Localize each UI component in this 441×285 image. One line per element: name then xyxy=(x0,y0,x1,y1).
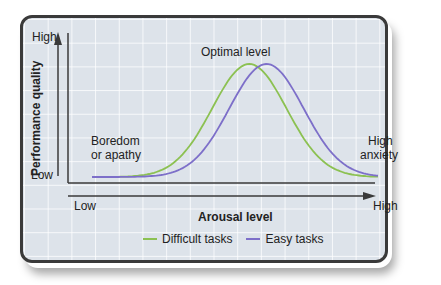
x-tick-high: High xyxy=(373,200,398,213)
legend-swatch-difficult xyxy=(143,238,157,240)
legend-swatch-easy xyxy=(246,238,260,240)
annotation-anxiety-line1: High xyxy=(368,135,393,148)
annotation-optimal: Optimal level xyxy=(201,46,270,59)
y-axis-title: Performance quality xyxy=(29,61,43,176)
legend-label-difficult: Difficult tasks xyxy=(162,232,232,246)
legend-label-easy: Easy tasks xyxy=(265,232,323,246)
annotation-anxiety-line2: anxiety xyxy=(360,149,398,162)
y-tick-high: High xyxy=(32,31,57,44)
annotation-boredom-line1: Boredom xyxy=(91,135,140,148)
legend-item-difficult: Difficult tasks xyxy=(143,232,232,246)
legend: Difficult tasks Easy tasks xyxy=(143,232,324,246)
x-tick-low: Low xyxy=(74,200,96,213)
x-axis-title: Arousal level xyxy=(198,211,273,224)
legend-item-easy: Easy tasks xyxy=(246,232,323,246)
annotation-boredom-line2: or apathy xyxy=(91,149,141,162)
